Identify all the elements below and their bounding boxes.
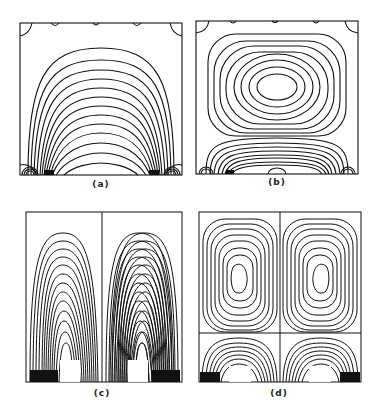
contour-plot-d [190, 200, 379, 414]
panel-b: (b) [0, 0, 379, 200]
contour-plot-b [0, 0, 379, 200]
panel-c: (c) [0, 200, 190, 414]
panel-d: (d) [190, 200, 379, 414]
contour-plot-c [0, 200, 190, 414]
panel-label-c: (c) [72, 388, 132, 398]
panel-label-d: (d) [249, 388, 309, 398]
panel-label-b: (b) [247, 177, 307, 187]
